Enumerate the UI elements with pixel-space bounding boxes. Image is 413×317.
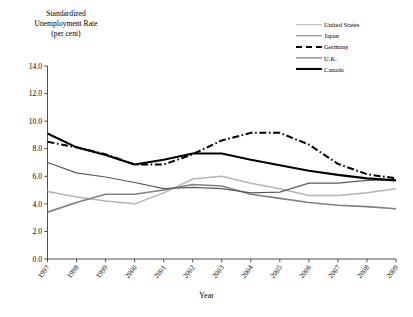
legend-item[interactable]: Japan [296,30,408,41]
y-axis-title: StandardizedUnemployment Rate(per cent) [14,9,118,40]
chart-figure: StandardizedUnemployment Rate(per cent) … [0,0,413,317]
x-tick-label: 2001 [153,263,168,280]
x-tick-label: 2003 [211,263,226,280]
legend-item-label: Japan [324,32,339,39]
y-tick-label: 2.0 [33,227,43,236]
series-line [48,133,397,178]
x-tick-label: 1997 [36,263,51,280]
x-tick-label: 2004 [240,263,255,280]
legend-swatch-icon [296,30,322,41]
y-tick-label: 8.0 [33,144,43,153]
y-tick-label: 6.0 [33,172,43,181]
axes [48,66,397,259]
legend-item[interactable]: Germany [296,41,408,52]
x-tick-label: 2008 [356,263,371,280]
x-tick-label: 2000 [124,263,139,280]
x-tick-label: 2007 [327,263,342,280]
y-tick-label: 10.0 [29,117,42,126]
x-axis-title: Year [0,291,413,300]
legend-swatch-icon [296,41,322,52]
y-axis-title-line-1: Standardized [46,9,86,18]
legend-item[interactable]: U.K. [296,53,408,64]
y-axis-title-line-3: (per cent) [51,29,80,38]
legend-swatch-icon [296,53,322,64]
y-axis-ticks: 0.02.04.06.08.010.012.014.0 [29,62,48,264]
legend-item-label: U.K. [324,55,337,62]
chart-legend: United StatesJapanGermanyU.K.Canada [296,19,408,75]
x-tick-label: 1999 [95,263,110,280]
x-tick-label: 2002 [182,263,197,280]
legend-swatch-icon [296,19,322,30]
y-axis-title-line-2: Unemployment Rate [34,19,97,28]
series-line [48,163,397,193]
y-tick-label: 4.0 [33,200,43,209]
y-tick-label: 0.0 [33,255,43,264]
x-tick-label: 2005 [269,263,284,280]
legend-item[interactable]: Canada [296,64,408,75]
legend-item-label: United States [324,21,359,28]
x-tick-label: 2006 [298,263,313,280]
x-tick-label: 1998 [65,263,80,280]
legend-item-label: Canada [324,66,344,73]
legend-swatch-icon [296,64,322,75]
x-axis-ticks: 1997199819992000200120022003200420052006… [36,259,400,280]
legend-item-label: Germany [324,43,349,50]
series-line [48,176,397,204]
y-tick-label: 12.0 [29,89,42,98]
series-group [48,133,397,212]
legend-item[interactable]: United States [296,19,408,30]
y-tick-label: 14.0 [29,62,42,71]
x-tick-label: 2009 [385,263,400,280]
